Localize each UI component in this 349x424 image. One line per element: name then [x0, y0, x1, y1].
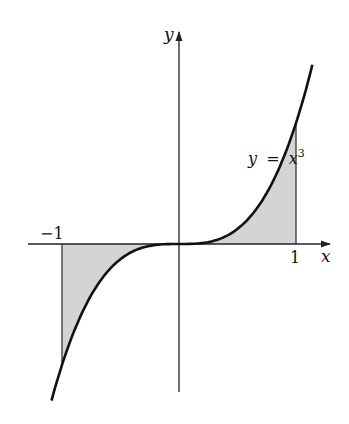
function-label: y = x3: [247, 147, 305, 168]
cubic-area-diagram: y x −1 1 y = x3: [0, 0, 349, 424]
x-axis-label: x: [321, 246, 331, 266]
tick-label-neg-one: −1: [40, 224, 64, 243]
tick-label-one: 1: [290, 248, 300, 267]
y-axis-label: y: [163, 24, 174, 44]
